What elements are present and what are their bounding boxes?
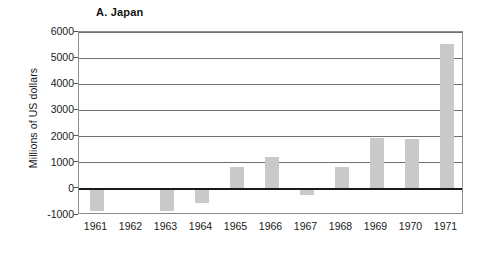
y-tick-label: -1000	[28, 209, 74, 220]
x-tick-label: 1964	[181, 220, 221, 232]
plot-area	[78, 31, 463, 214]
bar	[195, 189, 209, 203]
x-tick-label: 1969	[356, 220, 396, 232]
x-tick-label: 1962	[111, 220, 151, 232]
x-tick-label: 1970	[391, 220, 431, 232]
y-tick-label: 5000	[28, 52, 74, 63]
gridline	[79, 136, 462, 137]
bar	[90, 189, 104, 211]
gridline	[79, 110, 462, 111]
bar	[370, 138, 384, 189]
x-tick-label: 1966	[251, 220, 291, 232]
bar	[160, 189, 174, 211]
x-tick-label: 1968	[321, 220, 361, 232]
bar	[335, 167, 349, 189]
x-axis-tick-labels: 1961196219631964196519661967196819691970…	[78, 220, 463, 236]
x-tick-label: 1965	[216, 220, 256, 232]
y-tick-label: 0	[28, 183, 74, 194]
bar	[405, 139, 419, 189]
chart-figure: Millions of US dollars A. Japan 60005000…	[0, 0, 481, 253]
y-tick-label: 6000	[28, 26, 74, 37]
chart-title: A. Japan	[96, 6, 143, 18]
y-tick-label: 2000	[28, 131, 74, 142]
gridline	[79, 84, 462, 85]
y-tick-label: 1000	[28, 157, 74, 168]
y-tick-label: 3000	[28, 104, 74, 115]
y-tick-label: 4000	[28, 78, 74, 89]
x-tick-label: 1961	[76, 220, 116, 232]
gridline	[79, 32, 462, 33]
bar	[265, 157, 279, 188]
bar	[230, 167, 244, 189]
x-tick-label: 1963	[146, 220, 186, 232]
bar	[440, 44, 454, 189]
y-axis-tick-labels: 6000500040003000200010000-1000	[24, 31, 74, 214]
zero-line	[79, 188, 462, 190]
x-tick-label: 1971	[426, 220, 466, 232]
x-tick-label: 1967	[286, 220, 326, 232]
gridline	[79, 58, 462, 59]
